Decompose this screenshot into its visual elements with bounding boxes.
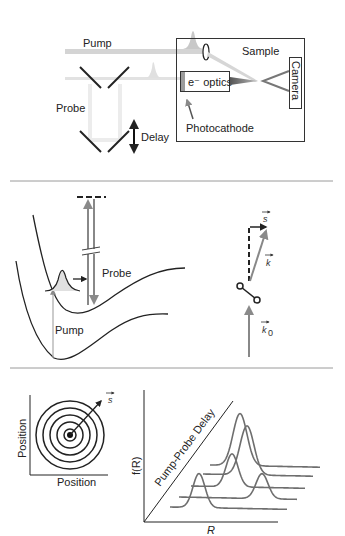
fr-trace [170, 474, 287, 510]
e-optics-label: e⁻ optics [188, 76, 232, 88]
fr-xlabel: R [207, 524, 215, 536]
delay-diagonal-axis [144, 401, 233, 522]
svg-text:k: k [266, 258, 271, 268]
vector-s-label-c: s [106, 393, 114, 405]
fr-trace [203, 426, 313, 476]
pump-beam [65, 49, 208, 54]
delay-label: Delay [141, 131, 170, 143]
photocathode-strip [181, 72, 185, 91]
svg-text:s: s [108, 395, 113, 405]
fr-trace [210, 414, 320, 468]
electron-beam [230, 77, 258, 85]
diagram-canvas: Pump Probe Delay Sample e⁻ optics Camera… [0, 0, 345, 536]
delay-axis-label: Pump-Probe Delay [152, 406, 217, 488]
molecule-atom [254, 297, 260, 303]
pattern-ylabel: Position [16, 419, 28, 458]
k-vector-arrow [250, 231, 266, 281]
photocathode-arrow-icon [187, 100, 193, 119]
vector-s-label: s [262, 212, 270, 224]
molecule-bond [241, 287, 256, 299]
panel-potential: Pump Probe s k k 0 [16, 197, 273, 359]
photocathode-label: Photocathode [186, 122, 254, 134]
probe-label: Probe [56, 102, 85, 114]
svg-text:0: 0 [268, 328, 273, 338]
pattern-xlabel: Position [57, 476, 96, 488]
excited-state-curve [33, 215, 185, 313]
pump-label-b: Pump [55, 324, 84, 336]
pump-pulse-icon [183, 31, 203, 49]
probe-beam [65, 77, 180, 80]
probe-pulse-icon [145, 62, 162, 78]
vector-k0-label: k 0 [261, 322, 273, 338]
svg-text:k: k [262, 325, 267, 335]
delay-loop-path [90, 84, 120, 140]
fr-trace [191, 454, 305, 489]
svg-text:s: s [263, 214, 268, 224]
diffraction-cone [263, 71, 289, 91]
vector-k-label: k [265, 255, 273, 268]
wavepacket [45, 270, 80, 291]
sample-label: Sample [242, 45, 279, 57]
camera-label: Camera [290, 61, 302, 101]
lens-icon [203, 44, 209, 60]
pump-label: Pump [83, 37, 112, 49]
panel-diffraction: s Position Position Pump-Probe Delay f(R… [16, 390, 320, 536]
fr-ylabel: f(R) [130, 457, 142, 475]
molecule-atom [237, 283, 243, 289]
panel-setup: Pump Probe Delay Sample e⁻ optics Camera… [56, 31, 305, 152]
probe-label-b: Probe [102, 267, 131, 279]
